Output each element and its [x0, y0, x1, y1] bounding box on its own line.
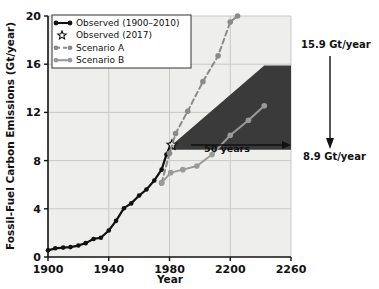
marker-filled-circle [168, 170, 174, 176]
legend-dot-icon [54, 58, 59, 63]
y-tick-label: 8 [33, 155, 41, 168]
chart-legend: Observed (1900–2010)Observed (2017)Scena… [52, 15, 191, 68]
x-tick-label: 1900 [33, 263, 64, 276]
y-axis-title: Fossil-Fuel Carbon Emissions (Gt/year) [4, 22, 16, 250]
chart-figure: 048121620 19001940198022002260 Fossil-Fu… [0, 0, 379, 289]
legend-dot-icon [68, 45, 73, 50]
marker-filled-circle [122, 206, 127, 211]
legend-label: Observed (2017) [76, 30, 152, 40]
lower-value-label: 8.9 Gt/year [303, 151, 366, 162]
marker-filled-circle [114, 219, 119, 224]
legend-dot-icon [54, 21, 59, 26]
marker-filled-circle [194, 163, 200, 169]
marker-filled-circle [106, 228, 111, 233]
y-tick-label: 16 [26, 58, 42, 71]
y-tick-label: 4 [33, 203, 41, 216]
legend-label: Observed (1900–2010) [76, 18, 180, 28]
marker-filled-circle [91, 237, 96, 242]
legend-label: Scenario A [76, 43, 125, 53]
legend-dot-icon [68, 21, 73, 26]
marker-filled-circle [129, 201, 134, 206]
legend-dot-icon [54, 45, 59, 50]
emissions-chart: 048121620 19001940198022002260 Fossil-Fu… [0, 0, 379, 289]
marker-filled-circle [159, 167, 164, 172]
x-tick-label: 2200 [215, 263, 246, 276]
marker-filled-circle [185, 108, 191, 114]
x-tick-label: 2260 [276, 263, 307, 276]
marker-filled-circle [200, 79, 206, 85]
marker-filled-circle [76, 243, 81, 248]
marker-filled-circle [227, 132, 233, 138]
x-axis-title: Year [156, 273, 184, 285]
fifty-years-label: 50 years [204, 143, 250, 154]
marker-filled-circle [159, 180, 165, 186]
marker-filled-circle [61, 245, 66, 250]
upper-value-label: 15.9 Gt/year [301, 39, 371, 50]
legend-dot-icon [68, 58, 73, 63]
marker-filled-circle [152, 178, 157, 183]
marker-filled-circle [215, 53, 221, 59]
y-tick-label: 20 [26, 10, 42, 23]
marker-filled-circle [180, 167, 186, 173]
x-tick-label: 1940 [93, 263, 124, 276]
marker-filled-circle [235, 13, 241, 19]
marker-filled-circle [167, 151, 173, 157]
marker-filled-circle [68, 245, 73, 250]
marker-filled-circle [99, 235, 104, 240]
marker-filled-circle [83, 241, 88, 246]
marker-filled-circle [173, 131, 179, 137]
marker-filled-circle [246, 117, 252, 123]
marker-filled-circle [261, 103, 267, 109]
legend-label: Scenario B [76, 55, 124, 65]
y-tick-label: 12 [26, 106, 41, 119]
marker-filled-circle [53, 246, 58, 251]
marker-filled-circle [137, 193, 142, 198]
marker-filled-circle [144, 187, 149, 192]
marker-filled-circle [227, 19, 233, 25]
